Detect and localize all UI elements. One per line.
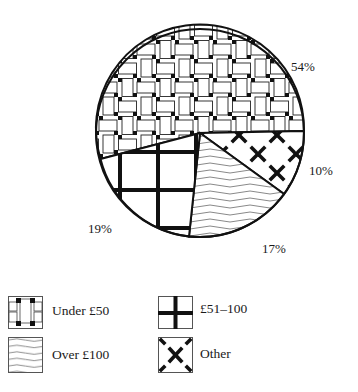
legend-swatch-under-50	[9, 297, 43, 329]
legend-label-51-100: £51–100	[200, 301, 247, 317]
label-other-pct: 10%	[309, 163, 333, 179]
label-over-100-pct: 17%	[262, 241, 286, 257]
label-under-50-pct: 54%	[291, 59, 315, 75]
legend-label-over-100: Over £100	[52, 347, 109, 363]
pie-slices	[96, 25, 304, 238]
label-51-100-pct: 19%	[88, 221, 112, 237]
legend-swatch-other	[159, 338, 193, 373]
legend-swatch-51-100	[158, 296, 193, 329]
legend-swatch-over-100	[9, 338, 43, 373]
legend-label-other: Other	[200, 346, 231, 362]
legend-label-under-50: Under £50	[52, 303, 109, 319]
